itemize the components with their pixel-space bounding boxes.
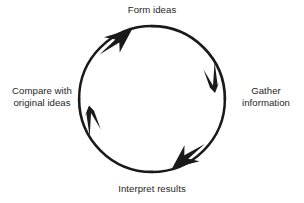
node-label-gather-information: Gather information — [228, 85, 304, 109]
cycle-diagram: Form ideas Gather information Interpret … — [0, 0, 304, 203]
node-label-gather-information-line2: information — [228, 97, 304, 109]
node-label-interpret-results-line1: Interpret results — [0, 183, 304, 195]
node-label-compare-original-ideas: Compare with original ideas — [4, 85, 80, 109]
arrow-to-form-ideas-icon — [100, 29, 133, 55]
arrow-to-interpret-results-icon — [172, 144, 205, 169]
cycle-ring — [79, 26, 225, 172]
node-label-interpret-results: Interpret results — [0, 183, 304, 195]
node-label-gather-information-line1: Gather — [228, 85, 304, 97]
node-label-compare-original-ideas-line2: original ideas — [4, 97, 80, 109]
node-label-form-ideas: Form ideas — [0, 4, 304, 16]
node-label-form-ideas-line1: Form ideas — [0, 4, 304, 16]
node-label-compare-original-ideas-line1: Compare with — [4, 85, 80, 97]
